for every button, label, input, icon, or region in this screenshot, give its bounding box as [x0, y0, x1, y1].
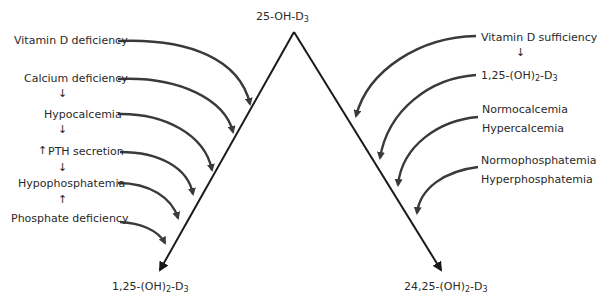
factor-normophosphatemia: Normophosphatemia	[481, 154, 596, 167]
arrow-up-icon: ↑	[38, 145, 47, 156]
factor-vitamin-d-deficiency: Vitamin D deficiency	[14, 34, 128, 47]
factor-hypercalcemia: Hypercalcemia	[482, 122, 564, 135]
curve-calcium-deficiency	[118, 79, 233, 132]
factor-hyperphosphatemia: Hyperphosphatemia	[481, 173, 593, 186]
factor-hypophosphatemia: Hypophosphatemia	[18, 177, 125, 190]
curve-phosphate-deficiency	[120, 222, 165, 243]
arrow-down-icon: ↓	[58, 162, 67, 173]
arrow-up-icon: ↑	[58, 194, 67, 205]
right-pathway-arrow	[294, 32, 441, 270]
curve-vitamin-d-deficiency	[118, 41, 250, 104]
arrow-down-icon: ↓	[516, 47, 525, 58]
left-curved-arrows	[118, 41, 250, 243]
right-curved-arrows	[356, 36, 478, 213]
arrow-down-icon: ↓	[58, 124, 67, 135]
factor-dihydroxy-d3: 1,25-(OH)2-D3	[481, 69, 558, 82]
curve-dihydroxy	[380, 75, 476, 158]
main-pathway-lines	[160, 32, 441, 270]
factor-phosphate-deficiency: Phosphate deficiency	[11, 212, 128, 225]
factor-hypocalcemia: Hypocalcemia	[44, 108, 122, 121]
factor-normocalcemia: Normocalcemia	[482, 103, 568, 116]
curve-pth-secretion	[120, 152, 193, 194]
factor-calcium-deficiency: Calcium deficiency	[24, 72, 128, 85]
factor-pth-secretion: PTH secretion	[48, 145, 124, 158]
curve-normophosphatemia	[417, 167, 478, 213]
curve-normocalcemia	[398, 117, 478, 185]
factor-vitamin-d-sufficiency: Vitamin D sufficiency	[481, 31, 597, 44]
right-product-label: 24,25-(OH)2-D3	[404, 280, 488, 293]
arrow-down-icon: ↓	[58, 88, 67, 99]
curve-vitamin-d-sufficiency	[356, 36, 476, 116]
apex-label-25-oh-d3: 25-OH-D3	[256, 10, 309, 23]
left-product-label: 1,25-(OH)2-D3	[112, 280, 189, 293]
